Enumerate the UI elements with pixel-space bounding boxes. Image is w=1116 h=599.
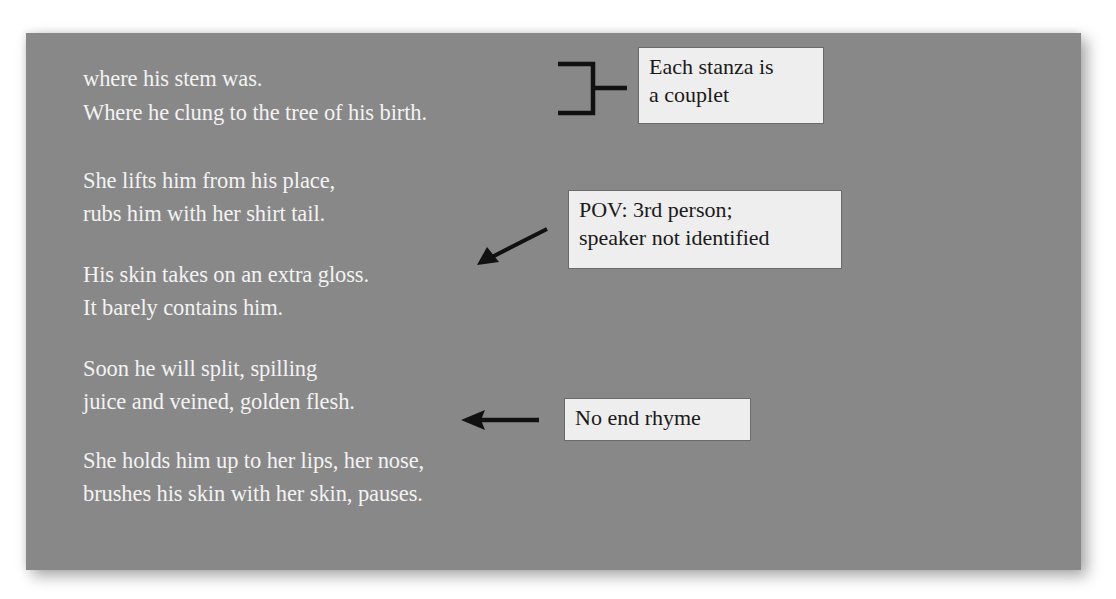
poem-line: She lifts him from his place,	[83, 168, 335, 194]
poem-line: His skin takes on an extra gloss.	[83, 262, 369, 288]
note-line: speaker not identified	[579, 224, 831, 252]
note-line: a couplet	[649, 81, 813, 109]
poem-line: where his stem was.	[83, 66, 262, 92]
note-line: POV: 3rd person;	[579, 196, 831, 224]
rhyme-note: No end rhyme	[564, 398, 751, 441]
note-line: No end rhyme	[575, 404, 740, 432]
poem-line: rubs him with her shirt tail.	[83, 201, 325, 227]
poem-line: juice and veined, golden flesh.	[83, 389, 355, 415]
point-of-view-note: POV: 3rd person; speaker not identified	[568, 190, 842, 269]
poem-line: She holds him up to her lips, her nose,	[83, 448, 424, 474]
note-line: Each stanza is	[649, 53, 813, 81]
poem-line: brushes his skin with her skin, pauses.	[83, 481, 423, 507]
poem-line: Where he clung to the tree of his birth.	[83, 100, 427, 126]
poem-line: It barely contains him.	[83, 295, 283, 321]
poem-line: Soon he will split, spilling	[83, 356, 317, 382]
stanza-form-note: Each stanza is a couplet	[638, 47, 824, 124]
